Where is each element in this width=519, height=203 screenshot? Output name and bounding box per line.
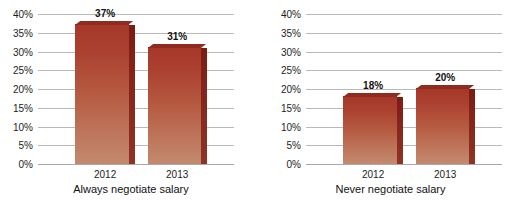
bar-side-face	[129, 25, 135, 164]
y-axis-tick-label: 30%	[281, 46, 301, 57]
y-axis-tick-label: 40%	[281, 9, 301, 20]
bar-top-face	[148, 44, 206, 48]
y-axis-tick-label: 10%	[281, 121, 301, 132]
plot-area-right: 0%5%10%15%20%25%30%35%40%18%201220%2013	[306, 14, 502, 164]
bar-value-label: 37%	[95, 8, 115, 19]
bar-top-face	[416, 85, 474, 89]
bar-front-face	[75, 24, 128, 164]
y-axis-tick-label: 35%	[281, 27, 301, 38]
gridline	[306, 14, 502, 15]
x-axis-category-label: 2013	[434, 169, 456, 180]
y-axis-tick-label: 5%	[287, 140, 301, 151]
bar-value-label: 20%	[435, 72, 455, 83]
gridline	[38, 164, 234, 165]
bar-front-face	[416, 88, 469, 164]
bar-front-face	[343, 96, 396, 165]
y-axis-tick-label: 25%	[13, 65, 33, 76]
bar	[416, 89, 469, 164]
y-axis-tick-label: 40%	[13, 9, 33, 20]
y-axis-tick-label: 20%	[281, 84, 301, 95]
chart-panel-always-negotiate-salary: 0%5%10%15%20%25%30%35%40%37%201231%2013 …	[0, 0, 262, 203]
y-axis-tick-label: 15%	[281, 102, 301, 113]
y-axis-tick-label: 25%	[281, 65, 301, 76]
bar-side-face	[201, 48, 207, 164]
chart-figure: 0%5%10%15%20%25%30%35%40%37%201231%2013 …	[0, 0, 519, 203]
y-axis-tick-label: 10%	[13, 121, 33, 132]
x-axis-category-label: 2012	[94, 169, 116, 180]
y-axis-tick-label: 20%	[13, 84, 33, 95]
y-axis-tick-label: 5%	[19, 140, 33, 151]
bar-value-label: 31%	[167, 31, 187, 42]
gridline	[306, 52, 502, 53]
bar-side-face	[469, 89, 475, 164]
gridline	[306, 164, 502, 165]
bar-value-label: 18%	[363, 80, 383, 91]
plot-area-left: 0%5%10%15%20%25%30%35%40%37%201231%2013	[38, 14, 234, 164]
x-axis-category-label: 2013	[166, 169, 188, 180]
bar-side-face	[397, 97, 403, 165]
gridline	[38, 14, 234, 15]
bar-top-face	[343, 93, 401, 97]
x-axis-category-label: 2012	[362, 169, 384, 180]
y-axis-tick-label: 35%	[13, 27, 33, 38]
bar-top-face	[75, 21, 133, 25]
bar	[75, 25, 128, 164]
gridline	[306, 70, 502, 71]
bar	[343, 97, 396, 165]
panel-caption-right: Never negotiate salary	[262, 183, 519, 195]
y-axis-tick-label: 30%	[13, 46, 33, 57]
y-axis-tick-label: 0%	[287, 159, 301, 170]
y-axis-tick-label: 15%	[13, 102, 33, 113]
bar	[148, 48, 201, 164]
gridline	[306, 33, 502, 34]
panel-caption-left: Always negotiate salary	[0, 183, 262, 195]
bar-front-face	[148, 47, 201, 164]
y-axis-tick-label: 0%	[19, 159, 33, 170]
gridline	[38, 33, 234, 34]
chart-panel-never-negotiate-salary: 0%5%10%15%20%25%30%35%40%18%201220%2013 …	[262, 0, 519, 203]
